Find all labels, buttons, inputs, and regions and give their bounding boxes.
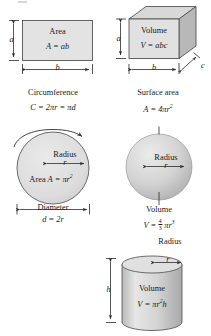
- sphere-volume-lhs: V: [143, 221, 148, 230]
- rectangle-formula-lhs: A: [46, 42, 51, 51]
- box-title: Volume: [141, 27, 167, 35]
- cylinder-radius-caption: Radius: [158, 238, 181, 246]
- equals-sign: =: [38, 103, 44, 112]
- surface-lhs: A: [143, 105, 148, 114]
- sphere-volume-exponent: 3: [172, 219, 175, 225]
- equals-sign: =: [148, 41, 154, 50]
- box-formula: V = abc: [141, 42, 168, 50]
- equals-sign: =: [144, 300, 150, 309]
- circle-radius-symbol: r: [63, 159, 66, 167]
- sphere-volume-caption: Volume: [146, 206, 172, 214]
- rectangle-label-b: b: [55, 64, 59, 72]
- circle-shape: [17, 132, 89, 204]
- box-label-c: c: [201, 62, 205, 70]
- box-label-b: b: [152, 64, 156, 72]
- diameter-lhs: d: [42, 215, 46, 224]
- surface-area-formula: A = 4πr2: [143, 104, 172, 114]
- equals-sign: =: [55, 175, 61, 184]
- circumference-formula: C = 2πr = πd: [30, 104, 75, 112]
- circumference-caption: Circumference: [28, 89, 78, 97]
- cylinder-volume-caption: Volume: [139, 285, 165, 293]
- geometry-figure-canvas: [0, 0, 211, 336]
- circumference-mid: 2πr: [46, 103, 58, 112]
- rectangle-formula-rhs: ab: [61, 42, 69, 51]
- cylinder-radius-symbol: r: [166, 256, 169, 264]
- sphere-volume-fraction: 4 3: [158, 218, 162, 231]
- circle-area-caption: Area: [29, 175, 45, 184]
- sphere-shape: [126, 134, 192, 200]
- diameter-caption: Diameter: [37, 204, 68, 212]
- surface-rhs-base: 4πr: [158, 105, 170, 114]
- equals-sign: =: [150, 105, 156, 114]
- rectangle-label-a: a: [10, 36, 14, 44]
- equals-sign: =: [53, 42, 59, 51]
- equals-sign: =: [60, 103, 66, 112]
- circumference-alt: πd: [67, 103, 75, 112]
- cylinder-volume-lhs: V: [137, 300, 142, 309]
- fraction-numerator: 4: [158, 218, 162, 225]
- sphere-volume-formula: V = 4 3 πr3: [143, 218, 174, 231]
- rectangle-title: Area: [49, 28, 65, 36]
- equals-sign: =: [49, 215, 55, 224]
- diameter-rhs: 2r: [56, 215, 63, 224]
- circle-area-formula: Area A = πr2: [29, 174, 72, 184]
- cylinder-height-symbol: h: [107, 286, 111, 294]
- fraction-denominator: 3: [158, 225, 162, 231]
- box-formula-rhs: abc: [155, 41, 167, 50]
- surface-exponent: 2: [170, 103, 173, 109]
- circumference-lhs: C: [30, 103, 36, 112]
- circle-area-exponent: 2: [70, 173, 73, 179]
- diameter-formula: d = 2r: [42, 216, 63, 224]
- cylinder-volume-rhs-tail: h: [162, 300, 166, 309]
- sphere-radius-symbol: r: [164, 162, 167, 170]
- box-label-a: a: [117, 35, 121, 43]
- circle-area-rhs-base: πr: [62, 175, 69, 184]
- box-formula-lhs: V: [141, 41, 146, 50]
- circle-area-lhs: A: [48, 175, 53, 184]
- surface-area-caption: Surface area: [137, 89, 179, 97]
- rectangle-formula: A = ab: [46, 43, 69, 51]
- cylinder-volume-formula: V = πr2h: [137, 299, 166, 309]
- equals-sign: =: [151, 221, 157, 230]
